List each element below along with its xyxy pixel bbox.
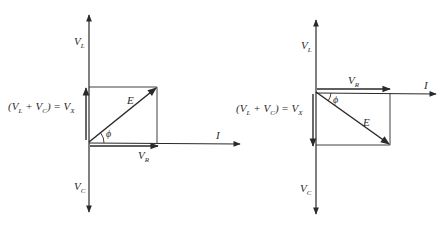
current-axis-arrow (89, 143, 240, 144)
e-phasor-arrow (89, 88, 156, 142)
right-i-label: I (423, 79, 429, 91)
right-vl-label: VL (301, 39, 312, 54)
right-phi-label: ϕ (333, 94, 338, 105)
left-phasor-diagram (86, 15, 240, 212)
e-phasor-arrow (316, 92, 389, 144)
left-phi-label: ϕ (106, 128, 111, 139)
right-e-label: E (362, 116, 370, 128)
phi-angle-arc (101, 133, 104, 143)
phasor-diagrams: VL VC (VL+ VC) = VX E ϕ VR I VL (0, 0, 448, 227)
phi-angle-arc (328, 93, 331, 101)
right-labels: VL VC (VL+ VC) = VX E ϕ VR I (236, 39, 429, 197)
left-i-label: I (215, 129, 221, 141)
left-vc-label: VC (74, 180, 86, 195)
phasor-diagram-figure: VL VC (VL+ VC) = VX E ϕ VR I VL (0, 0, 448, 227)
left-e-label: E (126, 94, 134, 106)
left-vl-label: VL (74, 35, 85, 50)
right-vr-label: VR (348, 74, 360, 89)
right-vx-label: (VL+ VC) = VX (236, 102, 303, 117)
left-labels: VL VC (VL+ VC) = VX E ϕ VR I (8, 35, 221, 195)
left-vr-label: VR (138, 149, 150, 164)
right-vc-label: VC (300, 182, 312, 197)
left-vx-label: (VL+ VC) = VX (8, 100, 75, 115)
right-phasor-diagram (313, 20, 436, 214)
